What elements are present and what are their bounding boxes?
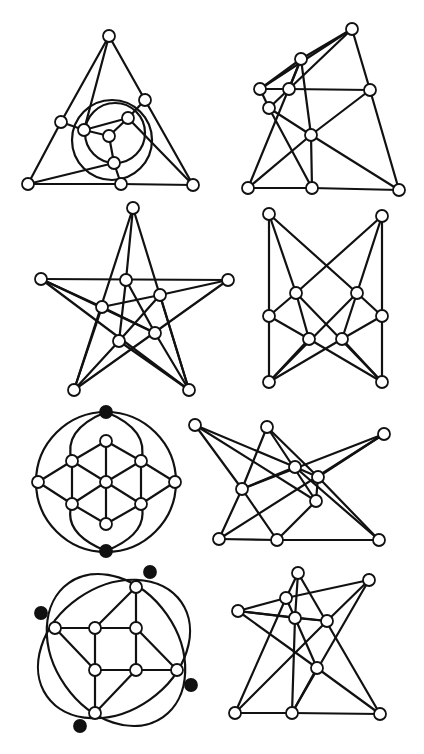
graph-edge	[41, 279, 228, 280]
white-vertex	[55, 116, 67, 128]
white-vertex	[254, 83, 266, 95]
white-vertex	[135, 498, 147, 510]
white-vertex	[236, 483, 248, 495]
graph-edge	[219, 539, 277, 540]
white-vertex	[154, 289, 166, 301]
graph-edge	[119, 280, 126, 341]
white-vertex	[242, 182, 254, 194]
white-vertex	[135, 455, 147, 467]
white-vertex	[120, 274, 132, 286]
ellipse-curve	[11, 551, 216, 747]
white-vertex	[100, 435, 112, 447]
white-vertex	[130, 622, 142, 634]
black-vertex	[144, 566, 156, 578]
black-vertex	[100, 545, 112, 557]
white-vertex	[127, 202, 139, 214]
white-vertex	[271, 534, 283, 546]
white-vertex	[295, 53, 307, 65]
graph-edge	[238, 598, 286, 611]
graph-edge	[269, 108, 312, 188]
graph-edge	[269, 339, 309, 382]
white-vertex	[312, 471, 324, 483]
white-vertex	[283, 83, 295, 95]
graph-g6-zigzag	[189, 419, 390, 546]
white-vertex	[229, 707, 241, 719]
black-vertex	[185, 679, 197, 691]
graph-edge	[292, 668, 317, 713]
graph-edge	[295, 467, 379, 540]
white-vertex	[189, 419, 201, 431]
white-vertex	[35, 273, 47, 285]
white-vertex	[68, 384, 80, 396]
white-vertex	[183, 384, 195, 396]
white-vertex	[346, 23, 358, 35]
white-vertex	[187, 179, 199, 191]
white-vertex	[89, 664, 101, 676]
graph-edge	[317, 668, 380, 714]
graph-edge	[55, 628, 95, 670]
graph-edge	[28, 163, 114, 184]
white-vertex	[222, 274, 234, 286]
graph-edge	[289, 89, 370, 90]
ellipse-curve	[18, 547, 214, 752]
graph-edge	[136, 628, 177, 670]
graph-edge	[298, 573, 380, 714]
white-vertex	[232, 605, 244, 617]
graph-g5-circle-lattice	[32, 406, 181, 557]
white-vertex	[113, 335, 125, 347]
white-vertex	[263, 102, 275, 114]
graph-edge	[74, 307, 102, 390]
graph-edge	[292, 618, 295, 713]
white-vertex	[373, 534, 385, 546]
white-vertex	[130, 581, 142, 593]
graph-g3-star	[35, 202, 234, 396]
graph-edge	[109, 36, 145, 100]
white-vertex	[336, 333, 348, 345]
white-vertex	[89, 707, 101, 719]
white-vertex	[66, 455, 78, 467]
white-vertex	[310, 495, 322, 507]
graph-edge	[242, 489, 277, 540]
white-vertex	[311, 662, 323, 674]
graph-edge	[155, 333, 189, 390]
graph-edge	[311, 135, 312, 188]
white-vertex	[363, 574, 375, 586]
graph-edge	[318, 477, 379, 540]
white-vertex	[280, 592, 292, 604]
white-vertex	[66, 498, 78, 510]
white-vertex	[49, 622, 61, 634]
graph-edge	[95, 587, 136, 628]
graph-edge	[119, 341, 189, 390]
white-vertex	[32, 476, 44, 488]
white-vertex	[376, 376, 388, 388]
white-vertex	[286, 707, 298, 719]
graph-edge	[74, 341, 119, 390]
white-vertex	[376, 310, 388, 322]
graph-edge	[84, 36, 109, 130]
graph-g4-butterfly	[263, 208, 388, 388]
graph-g8-star-quad	[229, 567, 386, 720]
white-vertex	[96, 301, 108, 313]
graph-edge	[342, 339, 382, 382]
white-vertex	[263, 376, 275, 388]
graph-edge	[160, 295, 189, 390]
white-vertex	[292, 567, 304, 579]
graph-edge	[352, 29, 370, 90]
white-vertex	[122, 112, 134, 124]
white-vertex	[376, 210, 388, 222]
white-vertex	[305, 129, 317, 141]
white-vertex	[374, 708, 386, 720]
black-vertex	[74, 720, 86, 732]
white-vertex	[100, 476, 112, 488]
white-vertex	[149, 327, 161, 339]
white-vertex	[289, 461, 301, 473]
graph-edge	[28, 122, 61, 184]
graph-edge	[277, 501, 316, 540]
white-vertex	[78, 124, 90, 136]
white-vertex	[321, 615, 333, 627]
white-vertex	[261, 421, 273, 433]
white-vertex	[263, 208, 275, 220]
black-vertex	[100, 406, 112, 418]
graph-figure-canvas	[0, 0, 424, 754]
white-vertex	[108, 157, 120, 169]
